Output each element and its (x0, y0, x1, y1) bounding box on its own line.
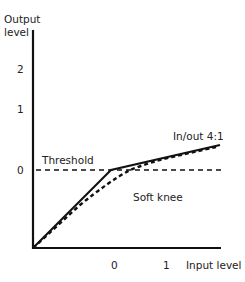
y-axis-label-line1: Output (4, 13, 40, 25)
y-tick-1: 1 (17, 103, 24, 115)
threshold-label: Threshold (41, 154, 94, 166)
x-axis-label: Input level (186, 259, 242, 271)
x-tick-0: 0 (111, 259, 118, 271)
y-tick-0: 0 (17, 164, 24, 176)
y-axis-label-line2: level (4, 26, 29, 38)
x-tick-1: 1 (163, 259, 170, 271)
soft-knee-label: Soft knee (133, 191, 183, 203)
y-tick-2: 2 (17, 63, 24, 75)
compressor-curve-diagram: Output level 2 1 0 Threshold In/out 4:1 … (0, 0, 245, 282)
ratio-label: In/out 4:1 (173, 130, 224, 142)
